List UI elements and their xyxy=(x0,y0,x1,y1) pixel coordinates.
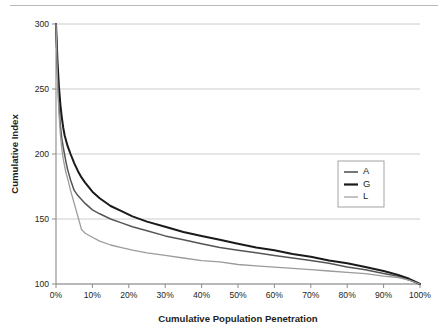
y-tick-label: 300 xyxy=(35,19,50,29)
x-tick-label: 70% xyxy=(302,290,320,300)
y-tick-label: 150 xyxy=(35,214,50,224)
x-tick-label: 50% xyxy=(229,290,247,300)
x-tick-label: 40% xyxy=(193,290,211,300)
x-tick-label: 10% xyxy=(84,290,102,300)
x-tick-label: 90% xyxy=(375,290,393,300)
x-tick-label: 100% xyxy=(409,290,431,300)
x-tick-label: 60% xyxy=(266,290,284,300)
y-tick-label: 250 xyxy=(35,84,50,94)
x-tick-label: 80% xyxy=(339,290,357,300)
figure-page: 100150200250300 0%10%20%30%40%50%60%70%8… xyxy=(0,0,446,333)
line-chart: 100150200250300 0%10%20%30%40%50%60%70%8… xyxy=(0,0,446,333)
x-axis-title: Cumulative Population Penetration xyxy=(158,313,318,324)
legend-label-l: L xyxy=(363,190,368,201)
y-tick-label: 200 xyxy=(35,149,50,159)
chart-legend[interactable]: AGL xyxy=(338,161,384,207)
y-tick-label: 100 xyxy=(35,279,50,289)
y-axis-ticks-group: 100150200250300 xyxy=(35,19,56,289)
y-axis-title: Cumulative Index xyxy=(9,114,20,194)
chart-canvas: 100150200250300 0%10%20%30%40%50%60%70%8… xyxy=(0,0,446,333)
legend-label-g: G xyxy=(363,178,370,189)
x-axis-ticks-group: 0%10%20%30%40%50%60%70%80%90%100% xyxy=(50,284,432,300)
x-tick-label: 20% xyxy=(120,290,138,300)
x-tick-label: 30% xyxy=(157,290,175,300)
legend-label-a: A xyxy=(363,165,370,176)
x-tick-label: 0% xyxy=(50,290,63,300)
